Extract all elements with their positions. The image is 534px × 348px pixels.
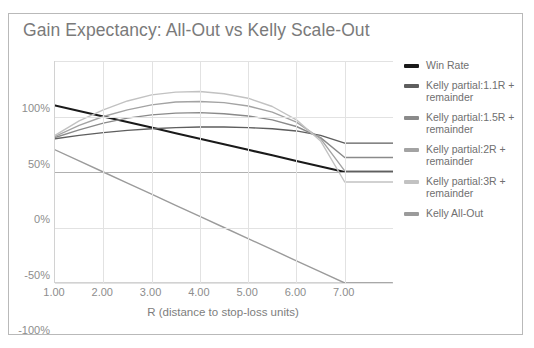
legend-swatch-icon xyxy=(404,116,419,120)
plot-area xyxy=(54,61,392,283)
x-gridline xyxy=(345,61,346,283)
legend-item[interactable]: Kelly partial:1.5R + remainder xyxy=(404,111,534,136)
x-axis-tick-label: 2.00 xyxy=(92,286,113,298)
x-axis-tick-label: 5.00 xyxy=(236,286,257,298)
x-gridline xyxy=(152,61,153,283)
series-line xyxy=(55,150,393,283)
y-axis-tick-label: 100% xyxy=(22,102,50,114)
chart-legend: Win RateKelly partial:1.1R + remainderKe… xyxy=(404,59,534,226)
x-gridline xyxy=(103,61,104,283)
legend-item-label: Kelly partial:1.1R + remainder xyxy=(426,79,530,104)
x-gridline xyxy=(296,61,297,283)
x-axis-tick-label: 7.00 xyxy=(333,286,354,298)
legend-swatch-icon xyxy=(404,148,419,152)
legend-item[interactable]: Kelly partial:3R + remainder xyxy=(404,175,534,200)
legend-swatch-icon xyxy=(404,212,419,216)
series-line xyxy=(55,113,393,158)
chart-frame: Gain Expectancy: All-Out vs Kelly Scale-… xyxy=(8,13,523,335)
legend-item[interactable]: Kelly partial:2R + remainder xyxy=(404,143,534,168)
legend-item[interactable]: Kelly partial:1.1R + remainder xyxy=(404,79,534,104)
legend-item[interactable]: Kelly All-Out xyxy=(404,207,534,220)
x-axis-tick-label: 6.00 xyxy=(285,286,306,298)
x-gridline xyxy=(248,61,249,283)
legend-item-label: Kelly partial:3R + remainder xyxy=(426,175,530,200)
y-axis-tick-label: 50% xyxy=(28,158,50,170)
y-gridline xyxy=(55,61,393,62)
x-axis-tick-label: 1.00 xyxy=(43,286,64,298)
y-axis-tick-label: 0% xyxy=(34,213,50,225)
legend-item-label: Kelly All-Out xyxy=(426,207,483,220)
x-axis-labels: 1.002.003.004.005.006.007.00 xyxy=(54,284,392,302)
series-line xyxy=(55,102,393,171)
legend-swatch-icon xyxy=(404,180,419,184)
series-line xyxy=(55,127,393,143)
legend-item[interactable]: Win Rate xyxy=(404,59,534,72)
legend-swatch-icon xyxy=(404,64,419,68)
y-axis-labels: 100%50%0%-50%-100% xyxy=(9,61,50,283)
x-axis-tick-label: 4.00 xyxy=(188,286,209,298)
y-gridline xyxy=(55,228,393,229)
y-axis-tick-label: -50% xyxy=(24,269,50,281)
y-gridline xyxy=(55,172,393,173)
legend-swatch-icon xyxy=(404,84,419,88)
x-axis-tick-label: 3.00 xyxy=(140,286,161,298)
legend-item-label: Win Rate xyxy=(426,59,469,72)
x-axis-title: R (distance to stop-loss units) xyxy=(54,306,392,318)
legend-item-label: Kelly partial:1.5R + remainder xyxy=(426,111,530,136)
x-gridline xyxy=(200,61,201,283)
y-gridline xyxy=(55,117,393,118)
legend-item-label: Kelly partial:2R + remainder xyxy=(426,143,530,168)
y-axis-tick-label: -100% xyxy=(18,324,50,336)
